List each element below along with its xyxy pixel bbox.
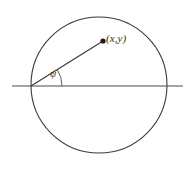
point-coordinate-label: (x,y)	[106, 33, 126, 44]
angle-arc	[57, 70, 62, 86]
angle-psi-label: ψ	[50, 69, 56, 79]
circle-angle-diagram: (x,y) ψ	[0, 0, 195, 170]
point-dot	[100, 38, 105, 43]
diagram-canvas	[0, 0, 195, 170]
circle-outline	[31, 17, 167, 153]
